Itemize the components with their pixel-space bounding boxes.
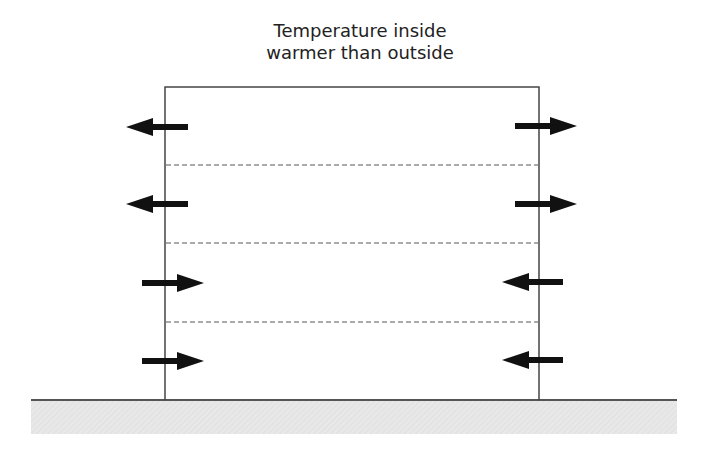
arrow-right-out-icon	[515, 117, 577, 135]
ground	[31, 400, 677, 434]
stack-effect-diagram	[0, 0, 704, 452]
arrow-right-in-icon	[502, 273, 563, 291]
arrow-right-in-icon	[502, 351, 563, 369]
arrow-left-in-icon	[142, 352, 204, 370]
floor-dividers	[166, 165, 538, 322]
arrow-left-out-icon	[126, 195, 188, 213]
arrow-left-in-icon	[142, 274, 204, 292]
arrow-right-out-icon	[515, 195, 577, 213]
arrow-left-out-icon	[126, 118, 188, 136]
